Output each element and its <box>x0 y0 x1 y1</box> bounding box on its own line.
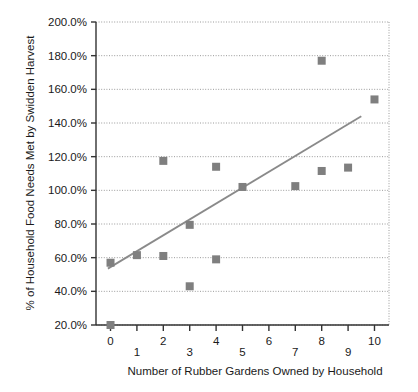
y-axis-tick-label: 100.0% <box>48 184 87 196</box>
y-axis-tick-label: 160.0% <box>48 83 87 95</box>
data-point <box>212 163 220 171</box>
scatter-chart: 20.0%40.0%60.0%80.0%100.0%120.0%140.0%16… <box>0 0 418 392</box>
x-axis-tick-label: 5 <box>239 346 245 358</box>
y-axis-tick-label: 40.0% <box>54 285 87 297</box>
chart-canvas: 20.0%40.0%60.0%80.0%100.0%120.0%140.0%16… <box>0 0 418 392</box>
data-point <box>133 251 141 259</box>
data-point <box>318 167 326 175</box>
x-axis-tick-label: 8 <box>318 335 324 347</box>
y-axis-tick-label: 140.0% <box>48 117 87 129</box>
data-point <box>370 95 378 103</box>
y-axis-tick-label: 180.0% <box>48 50 87 62</box>
y-axis-tick-label: 80.0% <box>54 218 87 230</box>
y-axis-tick-label: 200.0% <box>48 16 87 28</box>
data-point <box>159 157 167 165</box>
x-axis-tick-label: 6 <box>266 335 272 347</box>
x-axis-tick-label: 4 <box>213 335 220 347</box>
x-axis-tick-label: 2 <box>160 335 166 347</box>
data-point <box>107 321 115 329</box>
x-axis-tick-label: 0 <box>107 335 113 347</box>
data-point <box>239 183 247 191</box>
y-axis-tick-label: 20.0% <box>54 319 87 331</box>
data-point <box>186 282 194 290</box>
data-point <box>318 57 326 65</box>
x-axis-tick-label: 10 <box>368 335 381 347</box>
x-axis-tick-label: 1 <box>134 346 140 358</box>
y-axis-title: % of Household Food Needs Met by Swidden… <box>24 35 36 311</box>
y-axis-tick-label: 120.0% <box>48 151 87 163</box>
data-point <box>107 259 115 267</box>
x-axis-title: Number of Rubber Gardens Owned by Househ… <box>127 365 382 377</box>
data-point <box>159 252 167 260</box>
x-axis-tick-label: 7 <box>292 346 298 358</box>
data-point <box>344 164 352 172</box>
data-point <box>186 221 194 229</box>
y-axis-tick-label: 60.0% <box>54 252 87 264</box>
x-axis-tick-label: 9 <box>345 346 351 358</box>
x-axis-tick-label: 3 <box>187 346 193 358</box>
data-point <box>212 255 220 263</box>
data-point <box>291 182 299 190</box>
